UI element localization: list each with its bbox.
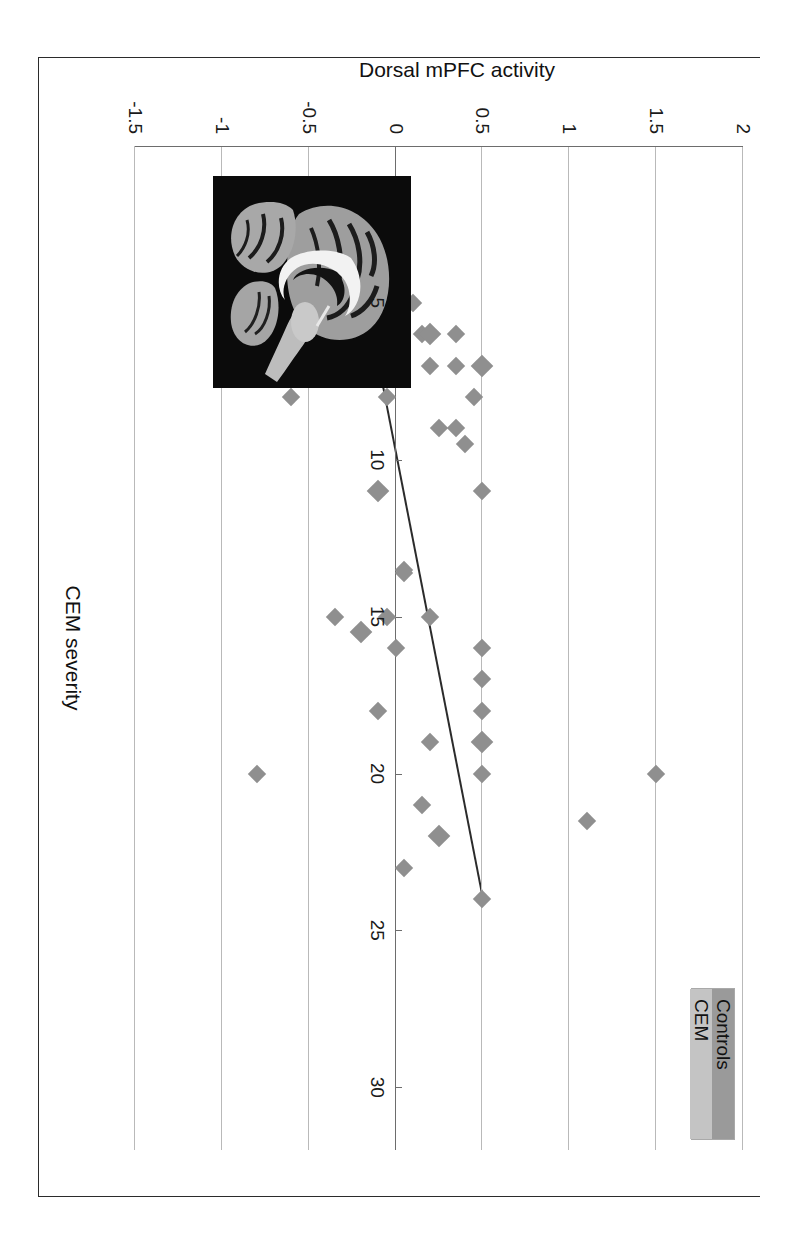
rotated-figure-wrapper: CEM severity Dorsal mPFC activity Contro… — [39, 58, 761, 1196]
data-point — [473, 482, 491, 500]
x-tick — [396, 774, 402, 775]
x-tick-label: 20 — [366, 763, 388, 784]
y-tick-label: -1.5 — [124, 68, 146, 134]
data-point — [421, 356, 439, 374]
scatter-chart: CEM severity Dorsal mPFC activity Contro… — [39, 58, 761, 1196]
data-point — [421, 733, 439, 751]
data-point — [647, 764, 665, 782]
x-tick — [396, 460, 402, 461]
y-tick-label: 1 — [558, 68, 580, 134]
x-tick-label: 10 — [366, 449, 388, 470]
gridline-y — [655, 146, 656, 1150]
data-point — [447, 325, 465, 343]
y-tick-label: 0.5 — [471, 68, 493, 134]
data-point — [369, 702, 387, 720]
data-point — [378, 388, 396, 406]
x-tick-label: 25 — [366, 920, 388, 941]
data-point — [282, 388, 300, 406]
gridline-y — [568, 146, 569, 1150]
legend-item-cem[interactable]: CEM — [690, 989, 712, 1139]
data-point — [465, 388, 483, 406]
data-point — [430, 419, 448, 437]
x-tick-label: 5 — [366, 298, 388, 309]
x-tick — [396, 617, 402, 618]
data-point — [447, 419, 465, 437]
data-point — [412, 796, 430, 814]
data-point — [326, 607, 344, 625]
data-point — [473, 764, 491, 782]
legend-label-controls: Controls — [712, 999, 734, 1070]
legend-label-cem: CEM — [690, 999, 712, 1041]
data-point — [447, 356, 465, 374]
data-point — [421, 607, 439, 625]
x-tick-label: 30 — [366, 1077, 388, 1098]
data-point — [577, 811, 595, 829]
gridline-y — [134, 146, 135, 1150]
x-tick — [396, 1087, 402, 1088]
y-axis-line — [135, 146, 743, 147]
y-tick-label: 1.5 — [645, 68, 667, 134]
data-point — [395, 858, 413, 876]
gridline-y — [742, 146, 743, 1150]
data-point — [456, 435, 474, 453]
y-axis-title: Dorsal mPFC activity — [153, 58, 761, 82]
data-point — [473, 670, 491, 688]
y-tick-label: -1 — [211, 68, 233, 134]
figure-frame: CEM severity Dorsal mPFC activity Contro… — [38, 57, 760, 1197]
x-tick-label: 15 — [366, 606, 388, 627]
data-point — [471, 731, 494, 754]
data-point — [247, 764, 265, 782]
data-point — [473, 702, 491, 720]
y-tick-label: -0.5 — [298, 68, 320, 134]
data-point — [386, 639, 404, 657]
brain-mri-icon — [213, 176, 411, 388]
data-point — [473, 639, 491, 657]
y-tick-label: 2 — [732, 68, 754, 134]
sagittal-brain-mri-inset — [213, 176, 411, 388]
data-point — [473, 890, 491, 908]
legend-item-controls[interactable]: Controls — [712, 989, 734, 1139]
y-tick-label: 0 — [385, 68, 407, 134]
data-point — [471, 354, 494, 377]
data-point — [367, 480, 390, 503]
x-tick — [396, 930, 402, 931]
x-axis-title: CEM severity — [61, 146, 85, 1150]
data-point — [428, 825, 451, 848]
legend: Controls CEM — [691, 988, 735, 1140]
